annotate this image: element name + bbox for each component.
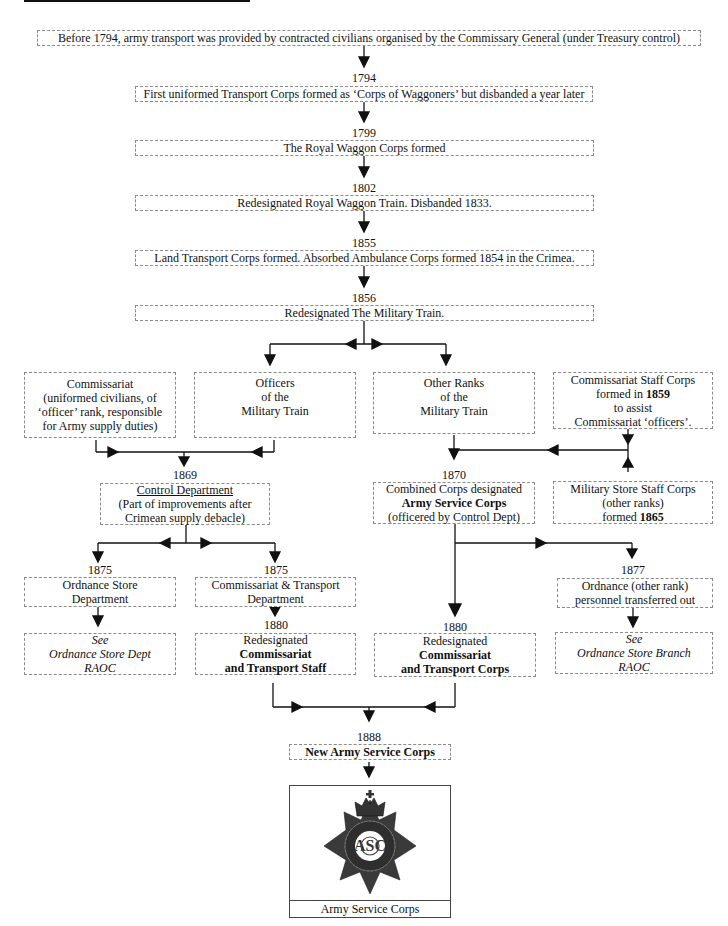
node-text: Redesignated Royal Waggon Train. Disband… [237,196,491,210]
year-1880-a: 1880 [246,619,306,632]
line: of the [261,390,289,404]
node-other-ranks-military-train: Other Ranks of the Military Train [373,372,535,434]
year-1877: 1877 [603,564,663,577]
year-1870: 1870 [424,469,484,482]
node-1802: Redesignated Royal Waggon Train. Disband… [135,195,594,211]
node-1875-commissariat-transport-department: Commissariat & Transport Department [195,577,356,607]
line: Other Ranks [424,376,484,390]
node-text: First uniformed Transport Corps formed a… [144,87,585,101]
node-1794: First uniformed Transport Corps formed a… [135,86,593,102]
line: See [92,633,109,647]
node-1880-commissariat-transport-corps: Redesignated Commissariat and Transport … [374,633,536,677]
line: Commissariat Staff Corps [571,373,695,387]
year-bold: 1865 [640,510,664,524]
node-1888-new-army-service-corps: New Army Service Corps [289,744,451,760]
line-text: formed [602,510,640,524]
node-officers-military-train: Officers of the Military Train [194,372,356,438]
line: (officered by Control Dept) [388,510,520,524]
node-1799: The Royal Waggon Corps formed [135,140,594,156]
node-commissariat-staff-corps: Commissariat Staff Corps formed in 1859 … [553,372,713,429]
node-1856: Redesignated The Military Train. [135,305,594,321]
line: Combined Corps designated [386,482,522,496]
line: Military Store Staff Corps [570,482,695,496]
line: (uniformed civilians, of [43,391,157,405]
line: Commissariat & Transport [211,578,339,592]
line: formed 1865 [602,510,664,524]
year-1856: 1856 [334,292,394,305]
line: ‘officer’ rank, responsible [38,405,162,419]
node-text: New Army Service Corps [305,745,435,759]
badge-frame: ASC [289,785,451,901]
line-bold: Commissariat [419,648,491,662]
node-see-ordnance-store-branch: See Ordnance Store Branch RAOC [555,632,713,674]
line: Commissariat [67,377,134,391]
node-military-store-staff-corps: Military Store Staff Corps (other ranks)… [553,481,713,524]
node-text: Before 1794, army transport was provided… [58,31,680,45]
line: Department [247,592,304,606]
line-bold: Army Service Corps [402,496,507,510]
node-1880-commissariat-transport-staff: Redesignated Commissariat and Transport … [195,633,356,675]
node-text: The Royal Waggon Corps formed [283,141,445,155]
line: Ordnance Store Dept [49,647,151,661]
year-1799: 1799 [334,127,394,140]
node-see-ordnance-store-dept: See Ordnance Store Dept RAOC [24,633,176,675]
line: Commissariat ‘officers’. [574,415,691,429]
year-1794: 1794 [334,72,394,85]
year-1888: 1888 [339,731,399,744]
line-bold: and Transport Staff [225,661,327,675]
line: Redesignated [423,634,488,648]
year-1875-b: 1875 [246,564,306,577]
line: of the [440,390,468,404]
line: RAOC [618,660,649,674]
line: Ordnance Store Branch [577,646,691,660]
svg-text:ASC: ASC [354,837,386,854]
node-text: Land Transport Corps formed. Absorbed Am… [154,251,574,265]
line: (other ranks) [602,496,664,510]
line: Officers [255,376,294,390]
line: Crimean supply debacle) [125,511,245,525]
node-1870-army-service-corps: Combined Corps designated Army Service C… [373,482,535,524]
badge-caption: Army Service Corps [289,900,451,918]
year-bold: 1859 [646,387,670,401]
line: See [626,632,643,646]
line: Redesignated [243,633,308,647]
line-bold: and Transport Corps [401,662,509,676]
line: Military Train [241,404,309,418]
line: (Part of improvements after [119,497,252,511]
line: Military Train [420,404,488,418]
node-1855: Land Transport Corps formed. Absorbed Am… [135,250,594,266]
node-pre-1794: Before 1794, army transport was provided… [37,30,701,46]
year-1802: 1802 [334,182,394,195]
year-1869: 1869 [155,469,215,482]
node-1877-ordnance-transferred: Ordnance (other rank) personnel transfer… [557,578,713,608]
node-commissariat: Commissariat (uniformed civilians, of ‘o… [24,372,176,438]
line-text: formed in [596,387,646,401]
node-1875-ordnance-store-department: Ordnance Store Department [24,577,176,607]
line: Department [72,592,129,606]
year-1875-a: 1875 [70,564,130,577]
line: Ordnance (other rank) [582,579,689,593]
line: RAOC [84,661,115,675]
line: to assist [614,401,652,415]
line: for Army supply duties) [43,419,158,433]
line: personnel transferred out [575,593,695,607]
node-title: Control Department [137,483,233,497]
line-bold: Commissariat [240,647,312,661]
army-service-corps-badge-icon: ASC [290,786,450,900]
line: Ordnance Store [63,578,138,592]
node-text: Redesignated The Military Train. [285,306,445,320]
node-1869-control-department: Control Department (Part of improvements… [100,483,270,525]
line: formed in 1859 [596,387,670,401]
year-1855: 1855 [334,237,394,250]
